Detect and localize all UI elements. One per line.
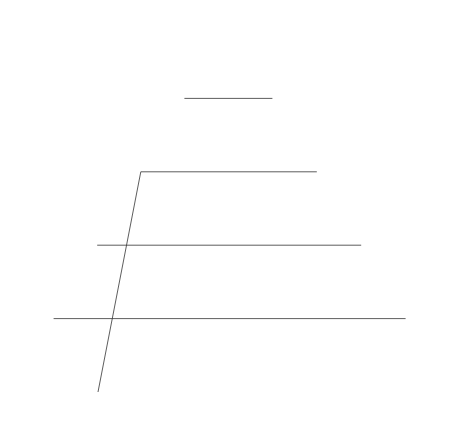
grid-lines xyxy=(54,98,406,392)
ternary-diagram xyxy=(0,0,460,427)
